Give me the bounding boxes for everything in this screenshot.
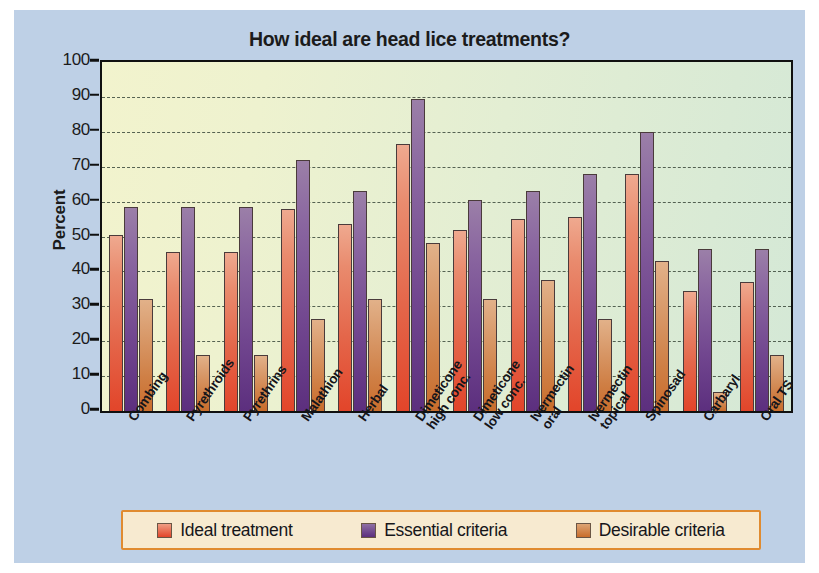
- bar-group: [102, 62, 159, 411]
- y-tick-mark: [90, 268, 99, 271]
- bar: [181, 207, 195, 411]
- legend-item[interactable]: Ideal treatment: [157, 520, 292, 541]
- bar: [338, 224, 352, 411]
- bar: [224, 252, 238, 411]
- chart-title: How ideal are head lice treatments?: [14, 28, 805, 51]
- y-tick-mark: [90, 233, 99, 236]
- y-tick-label: 50: [42, 225, 90, 245]
- y-tick-mark: [90, 408, 99, 411]
- y-tick-label: 30: [42, 294, 90, 314]
- y-tick-mark: [90, 303, 99, 306]
- y-tick-label: 20: [42, 329, 90, 349]
- y-axis-tick-labels: 1009080706050403020100: [42, 60, 90, 409]
- y-tick-mark: [90, 59, 99, 62]
- y-tick-label: 60: [42, 190, 90, 210]
- legend-label: Desirable criteria: [599, 520, 725, 541]
- chart-figure: How ideal are head lice treatments? Perc…: [14, 10, 805, 563]
- legend-swatch-icon: [157, 523, 172, 538]
- bar: [109, 235, 123, 411]
- y-tick-label: 70: [42, 155, 90, 175]
- y-tick-mark: [90, 163, 99, 166]
- legend-label: Ideal treatment: [180, 520, 292, 541]
- y-tick-mark: [90, 198, 99, 201]
- y-tick-mark: [90, 338, 99, 341]
- y-tick-label: 40: [42, 259, 90, 279]
- bar: [124, 207, 138, 411]
- bar: [353, 191, 367, 411]
- y-tick-label: 10: [42, 364, 90, 384]
- legend-swatch-icon: [361, 523, 376, 538]
- y-tick-label: 90: [42, 85, 90, 105]
- y-tick-label: 80: [42, 120, 90, 140]
- legend-item[interactable]: Desirable criteria: [576, 520, 725, 541]
- bar: [411, 99, 425, 411]
- y-tick-label: 100: [42, 50, 90, 70]
- y-tick-label: 0: [42, 399, 90, 419]
- y-tick-mark: [90, 94, 99, 97]
- legend-item[interactable]: Essential criteria: [361, 520, 507, 541]
- legend-swatch-icon: [576, 523, 591, 538]
- x-axis-category-labels: CombingPyrethroidsPyrethrinsMalathionHer…: [100, 414, 789, 506]
- y-tick-mark: [90, 129, 99, 132]
- bar: [166, 252, 180, 411]
- legend-label: Essential criteria: [384, 520, 507, 541]
- bar: [239, 207, 253, 411]
- y-tick-mark: [90, 373, 99, 376]
- chart-legend: Ideal treatmentEssential criteriaDesirab…: [121, 510, 761, 550]
- bar: [296, 160, 310, 411]
